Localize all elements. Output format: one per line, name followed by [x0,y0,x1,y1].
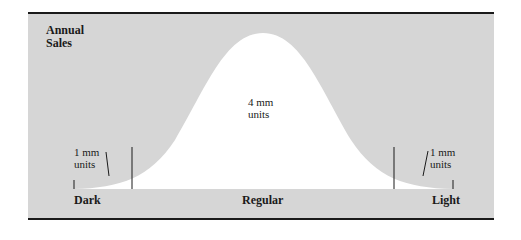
dark-value-label: 1 mm units [74,146,99,170]
regular-value-label: 4 mm units [248,96,273,120]
light-leader-line [423,151,428,176]
dark-leader-line [106,152,109,176]
regular-value-line2: units [248,108,273,120]
light-value-label: 1 mm units [430,146,455,170]
regular-category-label: Regular [242,193,283,208]
dark-value-line1: 1 mm [74,146,99,158]
light-category-label: Light [432,193,460,208]
y-axis-label-line2: Sales [46,37,84,50]
dark-category-label: Dark [74,193,101,208]
y-axis-label: Annual Sales [46,24,84,50]
dark-value-line2: units [74,158,99,170]
regular-value-line1: 4 mm [248,96,273,108]
bottom-rule [28,218,494,220]
light-value-line1: 1 mm [430,146,455,158]
light-value-line2: units [430,158,455,170]
